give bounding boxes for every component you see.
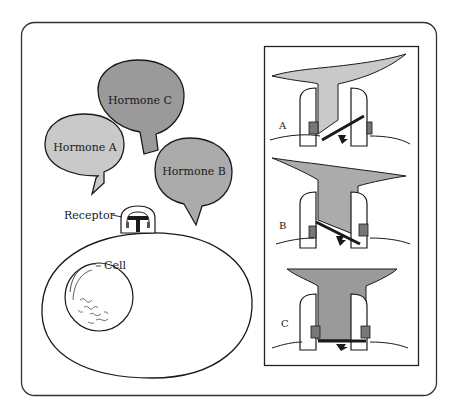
hormone-c-label: Hormone C xyxy=(108,94,172,107)
panel-c-label: C xyxy=(281,318,289,329)
cell: Cell xyxy=(42,233,252,378)
panel-b-label: B xyxy=(279,220,286,231)
hormone-a-label: Hormone A xyxy=(53,141,118,154)
hormone-receptor-diagram: Hormone C Hormone A Hormone B Cell xyxy=(0,0,457,412)
hormone-b-label: Hormone B xyxy=(162,165,226,178)
receptor-label: Receptor xyxy=(64,209,116,222)
nucleus xyxy=(65,263,133,331)
panel-a-label: A xyxy=(278,120,287,131)
cell-label: Cell xyxy=(104,259,126,272)
